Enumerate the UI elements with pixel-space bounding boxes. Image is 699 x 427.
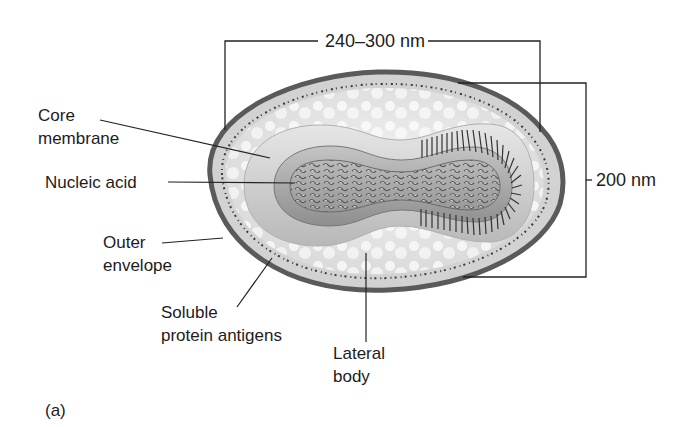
label-lateral-body: Lateral body bbox=[333, 342, 385, 388]
label-soluble-protein-antigens: Soluble protein antigens bbox=[161, 301, 282, 347]
label-outer-envelope: Outer envelope bbox=[103, 231, 172, 277]
width-dimension-label: 200 nm bbox=[592, 170, 659, 190]
panel-label: (a) bbox=[45, 399, 66, 422]
leader-soluble-antigens bbox=[237, 258, 272, 307]
length-dimension-label: 240–300 nm bbox=[322, 31, 428, 51]
label-nucleic-acid: Nucleic acid bbox=[45, 171, 137, 194]
label-core-membrane: Core membrane bbox=[38, 104, 119, 150]
